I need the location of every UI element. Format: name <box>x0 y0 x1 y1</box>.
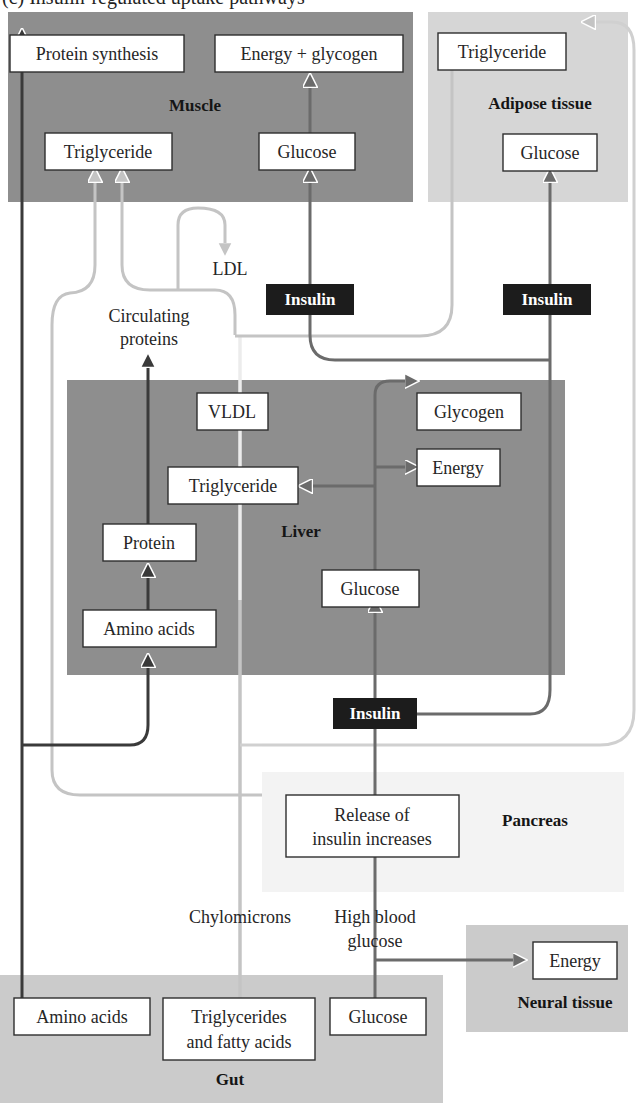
neural-label: Neural tissue <box>518 993 613 1012</box>
node-muscle-protein-synthesis: Protein synthesis <box>10 35 184 72</box>
svg-text:insulin increases: insulin increases <box>312 829 431 849</box>
svg-text:Energy: Energy <box>432 458 484 478</box>
svg-text:VLDL: VLDL <box>208 402 256 422</box>
pancreas-label: Pancreas <box>502 811 568 830</box>
svg-text:Protein: Protein <box>123 533 175 553</box>
insulin-tag-adipose: Insulin <box>503 284 591 315</box>
adipose-label: Adipose tissue <box>488 94 592 113</box>
svg-text:Insulin: Insulin <box>349 704 401 723</box>
svg-text:Amino acids: Amino acids <box>36 1007 128 1027</box>
liver-label: Liver <box>281 522 321 541</box>
svg-text:Triglyceride: Triglyceride <box>458 42 546 62</box>
svg-text:Triglyceride: Triglyceride <box>189 476 277 496</box>
svg-text:Energy: Energy <box>549 951 601 971</box>
node-neural-energy: Energy <box>533 942 617 979</box>
circulating-proteins-label-1: Circulating <box>109 306 190 326</box>
svg-text:Glucose: Glucose <box>278 142 337 162</box>
node-liver-vldl: VLDL <box>197 393 268 430</box>
svg-text:Insulin: Insulin <box>521 290 573 309</box>
node-liver-protein: Protein <box>103 524 196 561</box>
svg-text:Protein synthesis: Protein synthesis <box>36 44 159 64</box>
node-liver-glucose: Glucose <box>322 570 419 607</box>
node-liver-amino-acids: Amino acids <box>83 610 216 647</box>
figure-caption: (c) Insulin-regulated uptake pathways <box>2 0 305 9</box>
high-blood-glucose-label-1: High blood <box>334 907 416 927</box>
high-blood-glucose-label-2: glucose <box>348 931 403 951</box>
svg-text:Glucose: Glucose <box>349 1007 408 1027</box>
chylomicrons-label: Chylomicrons <box>189 907 291 927</box>
muscle-label: Muscle <box>169 96 221 115</box>
svg-text:Glucose: Glucose <box>521 143 580 163</box>
node-liver-energy: Energy <box>417 449 500 486</box>
node-muscle-triglyceride: Triglyceride <box>45 133 172 170</box>
node-liver-glycogen: Glycogen <box>417 393 521 430</box>
node-adipose-triglyceride: Triglyceride <box>438 33 566 70</box>
ldl-label: LDL <box>213 259 248 279</box>
circulating-proteins-label-2: proteins <box>120 329 178 349</box>
node-muscle-energy-glycogen: Energy + glycogen <box>215 35 403 72</box>
node-liver-triglyceride: Triglyceride <box>168 467 298 504</box>
svg-text:Release of: Release of <box>334 805 409 825</box>
metabolism-diagram: (c) Insulin-regulated uptake pathways Pr… <box>0 0 639 1103</box>
node-pancreas-release: Release of insulin increases <box>286 795 459 857</box>
insulin-tag-liver: Insulin <box>333 698 417 729</box>
node-gut-triglycerides: Triglycerides and fatty acids <box>163 998 315 1060</box>
svg-text:Energy + glycogen: Energy + glycogen <box>241 44 378 64</box>
node-muscle-glucose: Glucose <box>259 133 355 170</box>
svg-text:Triglycerides: Triglycerides <box>191 1007 286 1027</box>
svg-text:Glycogen: Glycogen <box>434 402 504 422</box>
svg-text:and fatty acids: and fatty acids <box>187 1032 292 1052</box>
svg-text:Insulin: Insulin <box>284 290 336 309</box>
node-gut-glucose: Glucose <box>330 998 426 1035</box>
node-gut-amino-acids: Amino acids <box>14 998 150 1035</box>
insulin-tag-muscle: Insulin <box>266 284 354 315</box>
svg-text:Amino acids: Amino acids <box>103 619 195 639</box>
svg-text:Triglyceride: Triglyceride <box>64 142 152 162</box>
svg-text:Glucose: Glucose <box>341 579 400 599</box>
node-adipose-glucose: Glucose <box>503 134 597 171</box>
gut-label: Gut <box>216 1070 245 1089</box>
